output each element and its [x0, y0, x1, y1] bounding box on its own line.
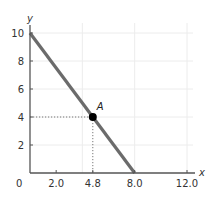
grid [30, 23, 193, 173]
y-tick-label: 4 [18, 112, 24, 123]
chart: 2.04.88.012.0246810 A x y 0 [0, 0, 217, 198]
x-tick-label: 4.8 [85, 178, 101, 189]
ticks: 2.04.88.012.0246810 [11, 28, 198, 189]
axes [30, 25, 195, 173]
point-label: A [96, 101, 104, 112]
y-tick-label: 2 [18, 140, 24, 151]
y-axis-title: y [26, 13, 34, 24]
x-tick-label: 8.0 [127, 178, 143, 189]
point-marker [89, 113, 97, 121]
y-tick-label: 10 [11, 28, 24, 39]
x-tick-label: 12.0 [176, 178, 198, 189]
x-axis-title: x [198, 167, 205, 178]
origin-label: 0 [16, 178, 22, 189]
x-tick-label: 2.0 [48, 178, 64, 189]
points: A [89, 101, 104, 121]
y-tick-label: 8 [18, 56, 24, 67]
y-tick-label: 6 [18, 84, 24, 95]
